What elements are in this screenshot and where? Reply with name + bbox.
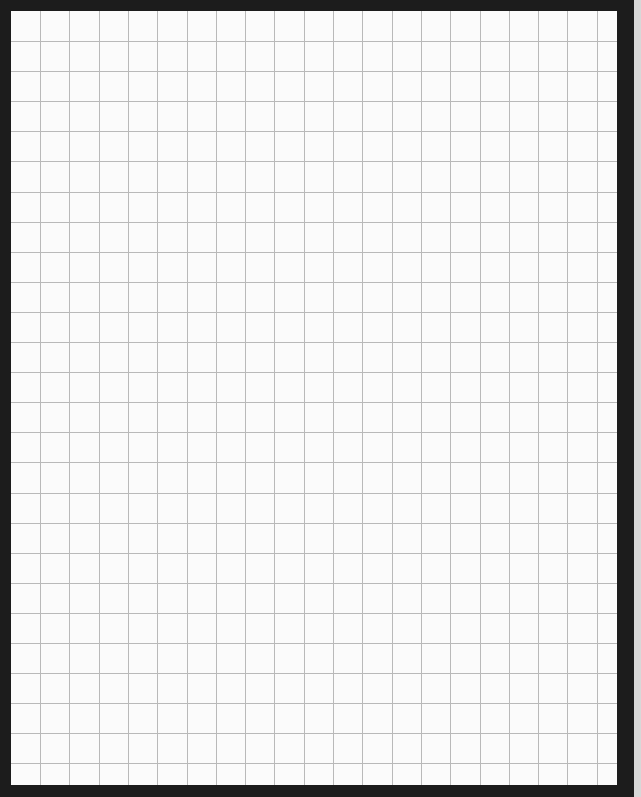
grid-line-horizontal bbox=[11, 553, 617, 554]
grid-line-vertical bbox=[216, 11, 217, 785]
black-border-frame bbox=[0, 0, 634, 797]
grid-line-horizontal bbox=[11, 252, 617, 253]
grid-line-horizontal bbox=[11, 41, 617, 42]
grid-line-vertical bbox=[362, 11, 363, 785]
grid-line-vertical bbox=[450, 11, 451, 785]
grid-line-vertical bbox=[392, 11, 393, 785]
grid-line-vertical bbox=[567, 11, 568, 785]
grid-line-horizontal bbox=[11, 402, 617, 403]
grid-line-vertical bbox=[157, 11, 158, 785]
grid-line-horizontal bbox=[11, 643, 617, 644]
grid-line-horizontal bbox=[11, 282, 617, 283]
grid-line-horizontal bbox=[11, 493, 617, 494]
grid-line-horizontal bbox=[11, 763, 617, 764]
grid-line-vertical bbox=[99, 11, 100, 785]
grid-line-horizontal bbox=[11, 131, 617, 132]
grid-line-horizontal bbox=[11, 583, 617, 584]
grid-line-vertical bbox=[304, 11, 305, 785]
grid-line-vertical bbox=[40, 11, 41, 785]
grid-line-horizontal bbox=[11, 222, 617, 223]
grid-line-horizontal bbox=[11, 733, 617, 734]
grid-line-horizontal bbox=[11, 101, 617, 102]
grid-line-vertical bbox=[333, 11, 334, 785]
grid-line-horizontal bbox=[11, 462, 617, 463]
grid-line-horizontal bbox=[11, 71, 617, 72]
graph-paper-sheet bbox=[11, 11, 617, 785]
grid-line-vertical bbox=[128, 11, 129, 785]
grid-line-vertical bbox=[187, 11, 188, 785]
grid-line-horizontal bbox=[11, 342, 617, 343]
grid-line-vertical bbox=[69, 11, 70, 785]
grid-line-horizontal bbox=[11, 432, 617, 433]
grid-line-vertical bbox=[480, 11, 481, 785]
grid-line-horizontal bbox=[11, 703, 617, 704]
grid-line-horizontal bbox=[11, 613, 617, 614]
grid-line-horizontal bbox=[11, 372, 617, 373]
grid-line-vertical bbox=[538, 11, 539, 785]
grid-line-horizontal bbox=[11, 192, 617, 193]
grid-line-vertical bbox=[421, 11, 422, 785]
grid-line-vertical bbox=[509, 11, 510, 785]
grid-line-vertical bbox=[274, 11, 275, 785]
grid-line-vertical bbox=[245, 11, 246, 785]
grid-line-horizontal bbox=[11, 523, 617, 524]
grid-line-horizontal bbox=[11, 161, 617, 162]
grid-line-horizontal bbox=[11, 312, 617, 313]
grid-line-horizontal bbox=[11, 673, 617, 674]
grid-line-vertical bbox=[597, 11, 598, 785]
